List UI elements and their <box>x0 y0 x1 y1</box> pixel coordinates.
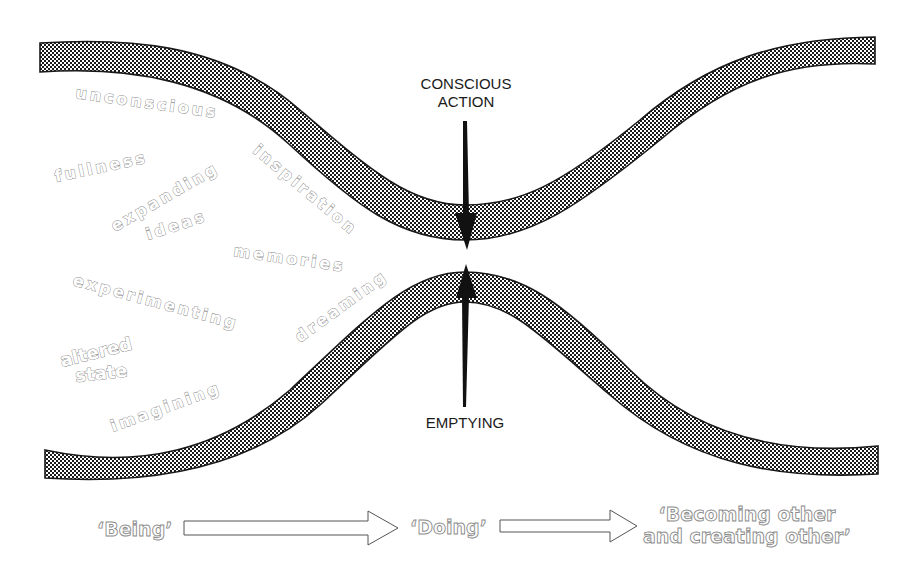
emptying-label: EMPTYING <box>426 414 504 431</box>
word-memories: memories <box>232 241 346 276</box>
word-experimenting: experimenting <box>71 271 241 334</box>
stage-being: ‘Being’ <box>97 518 172 540</box>
arrow-right-icon <box>500 510 637 542</box>
word-state: state <box>74 360 128 386</box>
word-imagining: imagining <box>108 378 224 436</box>
being-doing-diagram: CONSCIOUS ACTION EMPTYING unconscious fu… <box>0 0 917 576</box>
arrow-right-icon <box>184 511 398 545</box>
stage-doing: ‘Doing’ <box>410 516 487 538</box>
stage-becoming-line2: and creating other’ <box>643 525 851 547</box>
conscious-label-line1: CONSCIOUS <box>421 75 512 92</box>
word-fullness: fullness <box>53 148 149 186</box>
upper-channel-band <box>40 37 875 240</box>
stage-becoming-line1: ‘Becoming other <box>659 503 837 525</box>
conscious-label-line2: ACTION <box>438 93 495 110</box>
